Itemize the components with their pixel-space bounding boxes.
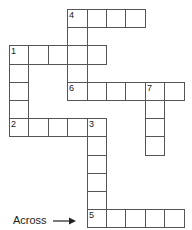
crossword-cell[interactable] — [9, 100, 29, 119]
clue-number: 1 — [11, 46, 16, 56]
crossword-cell[interactable] — [67, 27, 88, 46]
crossword-cell[interactable] — [106, 209, 126, 228]
crossword-cell[interactable] — [87, 191, 107, 210]
crossword-cell[interactable]: 7 — [145, 82, 165, 101]
crossword-cell[interactable] — [87, 82, 107, 101]
across-label: Across — [13, 214, 47, 226]
crossword-cell[interactable]: 3 — [87, 118, 107, 137]
crossword-cell[interactable] — [67, 45, 88, 65]
crossword-cell[interactable] — [9, 82, 29, 101]
right-arrow-icon — [53, 216, 77, 226]
crossword-cell[interactable] — [87, 9, 107, 28]
crossword-cell[interactable] — [48, 45, 68, 65]
clue-number: 3 — [89, 119, 94, 129]
crossword-cell[interactable]: 5 — [87, 209, 107, 228]
crossword-cell[interactable] — [125, 9, 146, 28]
crossword-cell[interactable] — [164, 82, 185, 101]
crossword-cell[interactable] — [67, 64, 88, 83]
clue-number: 6 — [69, 83, 74, 93]
crossword-cell[interactable]: 1 — [9, 45, 29, 65]
crossword-cell[interactable] — [164, 209, 185, 228]
crossword-cell[interactable]: 2 — [9, 118, 29, 137]
clue-number: 2 — [11, 119, 16, 129]
crossword-cell[interactable] — [145, 136, 165, 156]
crossword-cell[interactable] — [106, 82, 126, 101]
crossword-cell[interactable] — [28, 45, 49, 65]
crossword-cell[interactable] — [87, 136, 107, 156]
crossword-cell[interactable]: 6 — [67, 82, 88, 101]
crossword-grid: 4612735 — [0, 0, 192, 230]
crossword-cell[interactable] — [87, 155, 107, 174]
crossword-cell[interactable] — [87, 45, 107, 65]
crossword-cell[interactable] — [106, 9, 126, 28]
crossword-cell[interactable] — [28, 118, 49, 137]
clue-number: 4 — [69, 10, 74, 20]
crossword-cell[interactable]: 4 — [67, 9, 88, 28]
crossword-cell[interactable] — [145, 100, 165, 119]
crossword-cell[interactable] — [87, 173, 107, 192]
clue-number: 5 — [89, 210, 94, 220]
crossword-cell[interactable] — [67, 118, 88, 137]
crossword-cell[interactable] — [48, 118, 68, 137]
crossword-cell[interactable] — [9, 64, 29, 83]
crossword-cell[interactable] — [125, 82, 146, 101]
crossword-cell[interactable] — [145, 118, 165, 137]
crossword-cell[interactable] — [145, 209, 165, 228]
clue-number: 7 — [147, 83, 152, 93]
crossword-cell[interactable] — [125, 209, 146, 228]
